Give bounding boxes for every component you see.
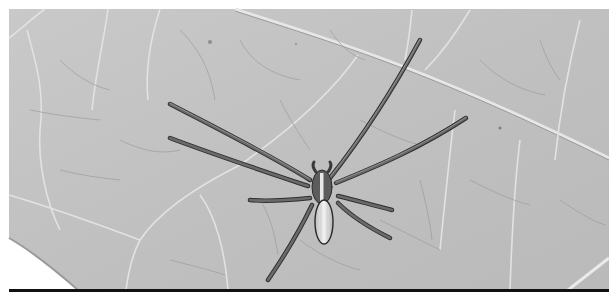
photo	[0, 0, 615, 294]
bottom-bar	[9, 289, 609, 292]
spider-on-leaf-image	[0, 0, 615, 294]
spider-abdomen	[315, 200, 333, 244]
